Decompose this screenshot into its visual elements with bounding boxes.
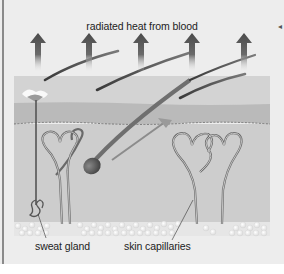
label-sweat-gland: sweat gland bbox=[35, 240, 90, 252]
fat-layer bbox=[14, 221, 270, 236]
diagram-title: radiated heat from blood bbox=[0, 20, 284, 32]
epidermis bbox=[14, 102, 270, 124]
label-skin-capillaries: skin capillaries bbox=[124, 240, 191, 252]
surface-layer bbox=[14, 76, 270, 106]
heat-arrow-1 bbox=[30, 33, 46, 72]
heat-arrow-5 bbox=[236, 33, 252, 72]
heat-arrows bbox=[30, 33, 252, 72]
heat-arrow-3 bbox=[133, 33, 149, 72]
skin-cross-section-diagram bbox=[0, 0, 284, 264]
heat-arrow-2 bbox=[81, 33, 97, 72]
skin-layers bbox=[14, 76, 270, 224]
edge-arrow-icon: ◂ bbox=[278, 22, 282, 31]
